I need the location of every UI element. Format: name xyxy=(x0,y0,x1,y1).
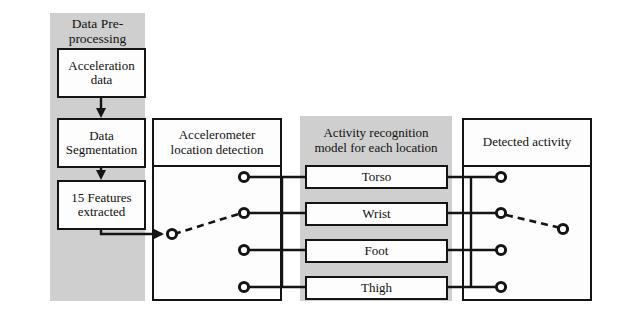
location-box-wrist[interactable]: Wrist xyxy=(305,202,448,226)
location-label-foot: Foot xyxy=(363,244,391,258)
location-box-torso[interactable]: Torso xyxy=(305,165,448,189)
location-detection-heading-line2: location detection xyxy=(171,143,264,157)
step-acceleration-data-line2: data xyxy=(89,73,115,87)
recognition-model-heading-line1: Activity recognition xyxy=(323,126,428,141)
panel-recognition-model-header: Activity recognition model for each loca… xyxy=(301,118,451,163)
step-box-acceleration-data[interactable]: Acceleration data xyxy=(57,48,146,98)
preprocessing-heading: Data Pre- processing xyxy=(50,14,145,48)
step-box-features-extracted[interactable]: 15 Features extracted xyxy=(57,180,146,230)
step-box-data-segmentation[interactable]: Data Segmentation xyxy=(57,118,146,168)
preprocessing-heading-line1: Data Pre- xyxy=(72,16,123,31)
detected-activity-heading: Detected activity xyxy=(483,135,571,149)
recognition-model-heading-line2: model for each location xyxy=(314,141,437,156)
step-features-extracted-line2: extracted xyxy=(76,205,128,219)
step-features-extracted-line1: 15 Features xyxy=(69,191,133,205)
step-data-segmentation-line2: Segmentation xyxy=(64,143,140,157)
preprocessing-heading-line2: processing xyxy=(69,31,127,46)
location-label-wrist: Wrist xyxy=(360,207,392,221)
panel-detected-activity: Detected activity xyxy=(462,118,592,301)
location-label-torso: Torso xyxy=(360,170,393,184)
location-box-foot[interactable]: Foot xyxy=(305,239,448,263)
location-box-thigh[interactable]: Thigh xyxy=(305,276,448,300)
location-detection-heading-line1: Accelerometer xyxy=(179,128,256,142)
panel-location-detection: Accelerometer location detection xyxy=(152,118,282,301)
diagram-canvas: Data Pre- processing Acceleration data D… xyxy=(0,0,622,327)
panel-location-detection-header: Accelerometer location detection xyxy=(154,120,280,167)
location-label-thigh: Thigh xyxy=(359,281,394,295)
step-data-segmentation-line1: Data xyxy=(87,129,116,143)
panel-detected-activity-header: Detected activity xyxy=(464,120,590,167)
step-acceleration-data-line1: Acceleration xyxy=(66,59,136,73)
